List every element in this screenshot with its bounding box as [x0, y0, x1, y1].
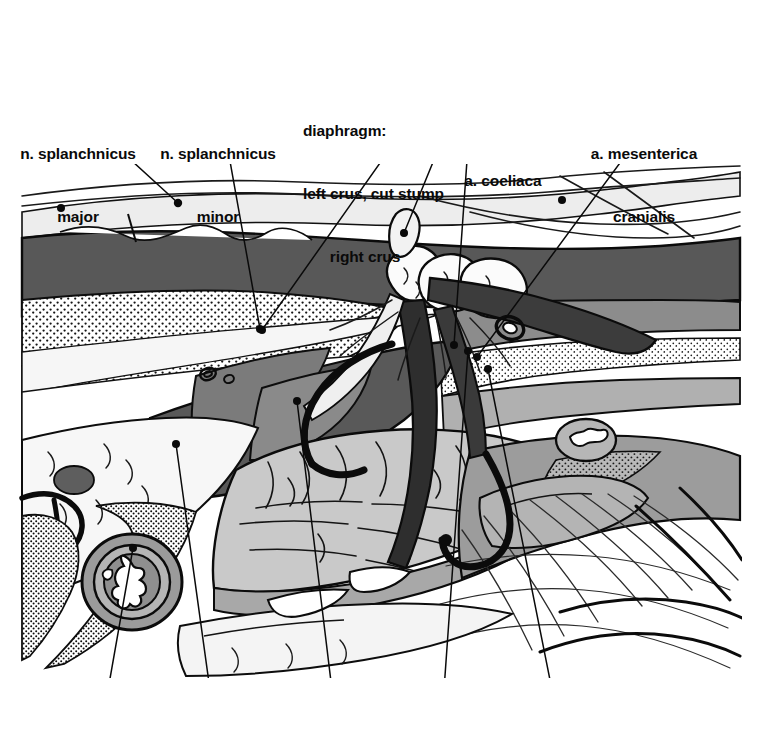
label-n-splanchnicus-minor: n. splanchnicus minor	[108, 101, 328, 269]
label-ganglion-plexus-coeliacus: ganglion and plexus coeliacus	[448, 699, 678, 741]
dot-a-mesenterica	[473, 353, 481, 361]
label-line-right-crus: right crus	[303, 246, 427, 267]
dot-a-lienalis	[464, 347, 472, 355]
label-line: n. splanchnicus	[108, 143, 328, 164]
label-line: cranialis	[534, 206, 754, 227]
label-line: minor	[108, 206, 328, 227]
dot-right-crus	[258, 326, 266, 334]
dot-a-hepatica	[172, 440, 180, 448]
dot-a-coeliaca	[450, 341, 458, 349]
dot-ln-hepaticus	[293, 397, 301, 405]
dot-ganglion	[484, 365, 492, 373]
anatomical-plate: n. splanchnicus major n. splanchnicus mi…	[0, 0, 757, 741]
label-line: a. mesenterica	[534, 143, 754, 164]
label-a-mesenterica-cranialis: a. mesenterica cranialis	[534, 101, 754, 269]
dot-a-gastroduodenalis	[129, 544, 137, 552]
